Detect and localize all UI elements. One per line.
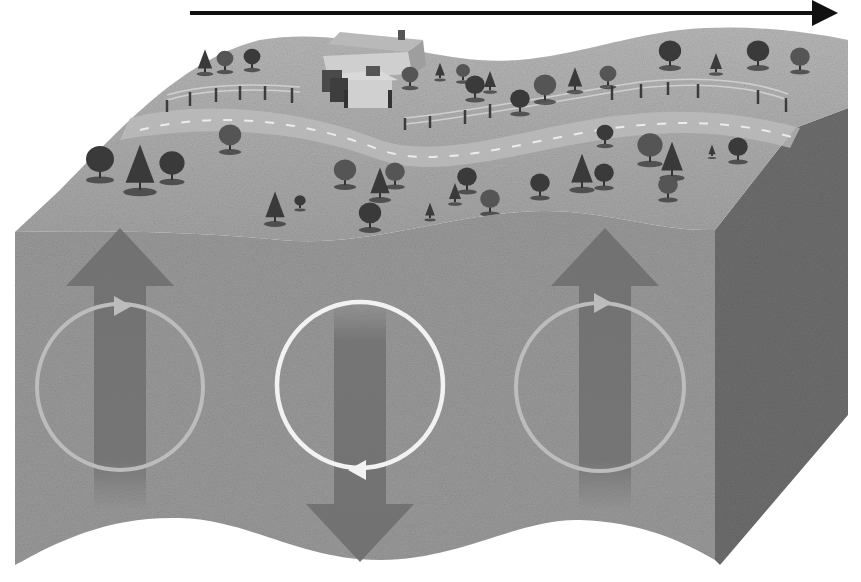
tree [597, 125, 614, 148]
tree [594, 164, 614, 191]
tree [219, 124, 241, 154]
tree [244, 49, 261, 72]
rayleigh-wave-diagram [0, 0, 861, 582]
tree [457, 168, 477, 195]
tree [510, 90, 530, 117]
tree [480, 190, 500, 217]
tree [637, 133, 662, 167]
propagation-direction-arrow [190, 0, 838, 26]
tree [728, 138, 748, 165]
tree [659, 40, 681, 70]
tree [530, 174, 550, 201]
tree [402, 67, 419, 90]
tree [534, 74, 556, 104]
tree [86, 146, 114, 184]
tree [790, 48, 810, 75]
tree [465, 76, 485, 103]
tree [747, 40, 769, 70]
tree [359, 202, 381, 232]
tree [294, 195, 305, 211]
tree [159, 151, 184, 185]
tree [600, 66, 617, 89]
tree [334, 159, 356, 189]
tree [217, 51, 234, 74]
tree [385, 163, 405, 190]
tree [658, 176, 678, 203]
